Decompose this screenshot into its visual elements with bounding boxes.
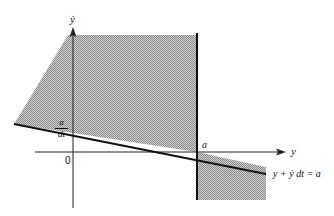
intercept-numerator: a — [55, 118, 68, 127]
upper-shaded-region — [14, 35, 197, 152]
a-point-label: a — [202, 140, 207, 150]
line-equation-label: y + ẏ dt = a — [273, 169, 321, 179]
intercept-denominator: dt — [55, 130, 68, 139]
phase-diagram — [0, 0, 334, 216]
y-dot-axis-label: ẏ — [70, 14, 75, 25]
intercept-fraction: a dt — [55, 118, 68, 139]
lower-shaded-region — [197, 152, 266, 200]
y-axis-label: y — [291, 146, 296, 157]
origin-label: 0 — [65, 156, 71, 166]
